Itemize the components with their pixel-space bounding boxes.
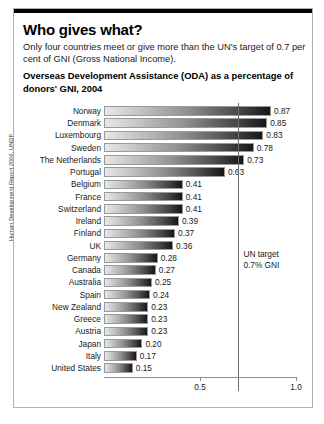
bar-row: Austria0.23 bbox=[104, 327, 296, 337]
bar-chart-plot-area: Norway0.87Denmark0.85Luxembourg0.83Swede… bbox=[104, 105, 296, 377]
un-target-annotation: UN target 0.7% GNI bbox=[243, 249, 279, 270]
un-target-line2: 0.7% GNI bbox=[243, 260, 279, 271]
bar-row: Finland0.37 bbox=[104, 229, 296, 239]
bar-value-label: 0.28 bbox=[161, 253, 177, 262]
bar-category-label: Japan bbox=[78, 339, 101, 348]
bar-value-label: 0.24 bbox=[153, 290, 169, 299]
bar bbox=[104, 351, 137, 361]
bar-row: France0.41 bbox=[104, 192, 296, 202]
bar bbox=[104, 314, 148, 324]
bar bbox=[104, 278, 152, 288]
bar-row: Greece0.23 bbox=[104, 314, 296, 324]
bar-row: Australia0.25 bbox=[104, 278, 296, 288]
bar-value-label: 0.87 bbox=[274, 106, 290, 115]
x-axis-tick bbox=[200, 377, 201, 381]
source-credit: Human Development Report 2006, UNDP bbox=[8, 134, 14, 241]
bar-category-label: Germany bbox=[67, 253, 101, 262]
bar-category-label: Luxembourg bbox=[55, 131, 101, 140]
bar-value-label: 0.39 bbox=[182, 217, 198, 226]
un-target-line1: UN target bbox=[243, 249, 279, 260]
bar-value-label: 0.27 bbox=[159, 266, 175, 275]
bar-value-label: 0.25 bbox=[155, 278, 171, 287]
bar-value-label: 0.23 bbox=[151, 302, 167, 311]
bar-value-label: 0.15 bbox=[136, 364, 152, 373]
bar bbox=[104, 192, 183, 202]
bar-value-label: 0.73 bbox=[247, 155, 263, 164]
bar bbox=[104, 290, 150, 300]
bar-category-label: Ireland bbox=[76, 217, 101, 226]
bar bbox=[104, 241, 173, 251]
bar-category-label: Italy bbox=[86, 351, 101, 360]
bar-row: Luxembourg0.83 bbox=[104, 131, 296, 141]
un-target-line bbox=[238, 103, 239, 391]
bar-row: Sweden0.78 bbox=[104, 143, 296, 153]
bar-row: Spain0.24 bbox=[104, 290, 296, 300]
bar-value-label: 0.36 bbox=[176, 241, 192, 250]
bar-value-label: 0.37 bbox=[178, 229, 194, 238]
bar-value-label: 0.83 bbox=[266, 131, 282, 140]
bar-row: Belgium0.41 bbox=[104, 180, 296, 190]
bar-category-label: Canada bbox=[72, 266, 101, 275]
bar bbox=[104, 106, 271, 116]
bar-row: The Netherlands0.73 bbox=[104, 155, 296, 165]
bar bbox=[104, 265, 156, 275]
bar-value-label: 0.85 bbox=[270, 119, 286, 128]
bar-value-label: 0.78 bbox=[257, 143, 273, 152]
bar-row: New Zealand0.23 bbox=[104, 302, 296, 312]
bar-category-label: Finland bbox=[74, 229, 101, 238]
x-axis: 0.51.0 bbox=[104, 377, 296, 399]
x-axis-tick-label: 0.5 bbox=[194, 382, 206, 392]
bar-category-label: Spain bbox=[80, 290, 101, 299]
bar bbox=[104, 143, 254, 153]
bar-category-label: Portugal bbox=[70, 168, 101, 177]
subtitle-text: Only four countries meet or give more th… bbox=[23, 41, 307, 65]
bar-value-label: 0.63 bbox=[228, 168, 244, 177]
bar-category-label: Belgium bbox=[71, 180, 101, 189]
bar bbox=[104, 339, 142, 349]
bar-category-label: New Zealand bbox=[52, 302, 101, 311]
bar-row: United States0.15 bbox=[104, 363, 296, 373]
bar-category-label: Switzerland bbox=[58, 204, 101, 213]
bar bbox=[104, 131, 263, 141]
bar-row: Denmark0.85 bbox=[104, 118, 296, 128]
x-axis-tick bbox=[296, 377, 297, 381]
bar-value-label: 0.23 bbox=[151, 315, 167, 324]
bar-category-label: France bbox=[75, 192, 101, 201]
bar-category-label: Sweden bbox=[71, 143, 101, 152]
bar bbox=[104, 302, 148, 312]
bar-row: Ireland0.39 bbox=[104, 216, 296, 226]
bar-value-label: 0.41 bbox=[186, 204, 202, 213]
bar-category-label: Greece bbox=[74, 315, 101, 324]
page-title: Who gives what? bbox=[23, 21, 143, 38]
bar bbox=[104, 216, 179, 226]
bar-value-label: 0.23 bbox=[151, 327, 167, 336]
bar-category-label: Australia bbox=[69, 278, 101, 287]
bar-category-label: The Netherlands bbox=[40, 155, 101, 164]
chart-title: Overseas Development Assistance (ODA) as… bbox=[23, 70, 303, 95]
bar bbox=[104, 229, 175, 239]
bar-value-label: 0.41 bbox=[186, 180, 202, 189]
bar bbox=[104, 155, 244, 165]
bar bbox=[104, 363, 133, 373]
bar-category-label: Denmark bbox=[67, 119, 101, 128]
bar-category-label: United States bbox=[51, 364, 101, 373]
bar-row: Italy0.17 bbox=[104, 351, 296, 361]
bar bbox=[104, 180, 183, 190]
bar-value-label: 0.17 bbox=[140, 351, 156, 360]
bar-row: Norway0.87 bbox=[104, 106, 296, 116]
bar-value-label: 0.20 bbox=[145, 339, 161, 348]
bar bbox=[104, 253, 158, 263]
infographic-panel: Who gives what? Only four countries meet… bbox=[13, 8, 313, 408]
bar bbox=[104, 167, 225, 177]
bar bbox=[104, 327, 148, 337]
x-axis-tick-label: 1.0 bbox=[290, 382, 302, 392]
bar bbox=[104, 118, 267, 128]
bar bbox=[104, 204, 183, 214]
bar-row: Japan0.20 bbox=[104, 339, 296, 349]
bar-row: Switzerland0.41 bbox=[104, 204, 296, 214]
bar-value-label: 0.41 bbox=[186, 192, 202, 201]
bar-category-label: Austria bbox=[75, 327, 101, 336]
bar-category-label: Norway bbox=[73, 106, 101, 115]
bar-category-label: UK bbox=[89, 241, 101, 250]
top-rule bbox=[14, 9, 312, 13]
